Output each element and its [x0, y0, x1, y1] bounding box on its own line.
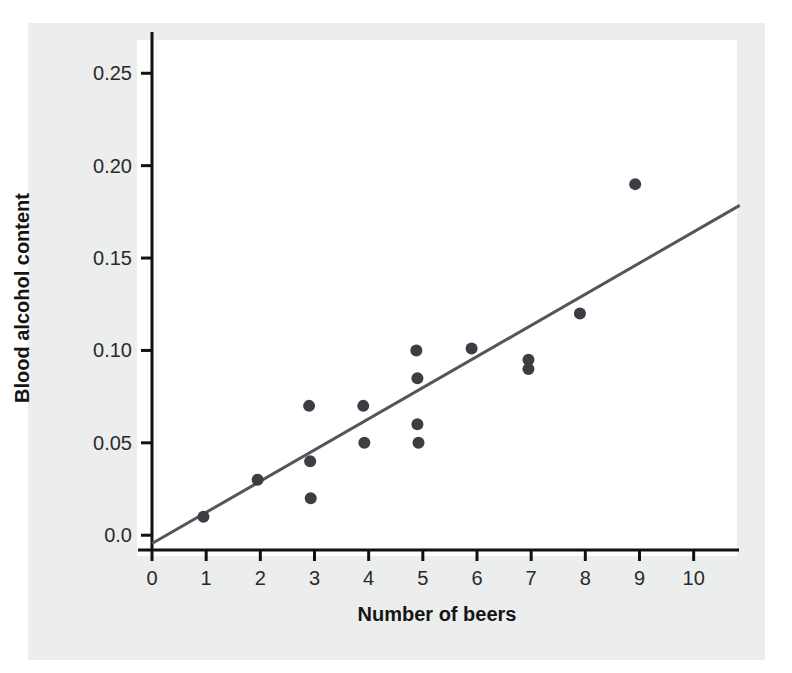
x-tick-label-2: 2 — [255, 567, 266, 590]
y-tick-label-1: 0.05 — [0, 431, 132, 454]
x-axis-label: Number of beers — [358, 603, 517, 626]
x-tick-label-5: 5 — [417, 567, 428, 590]
x-tick-label-8: 8 — [580, 567, 591, 590]
y-tick-label-0: 0.0 — [0, 524, 132, 547]
y-tick-label-5: 0.25 — [0, 62, 132, 85]
x-tick-label-0: 0 — [146, 567, 157, 590]
y-axis-label: Blood alcohol content — [11, 193, 34, 403]
x-tick-label-6: 6 — [471, 567, 482, 590]
figure-container: 0.00.050.100.150.200.25 012345678910 Blo… — [0, 0, 792, 673]
x-tick-label-1: 1 — [201, 567, 212, 590]
x-tick-label-4: 4 — [363, 567, 374, 590]
plot-area — [137, 40, 737, 556]
x-tick-label-9: 9 — [634, 567, 645, 590]
x-tick-label-7: 7 — [526, 567, 537, 590]
x-tick-label-10: 10 — [683, 567, 705, 590]
y-tick-label-4: 0.20 — [0, 154, 132, 177]
x-tick-label-3: 3 — [309, 567, 320, 590]
